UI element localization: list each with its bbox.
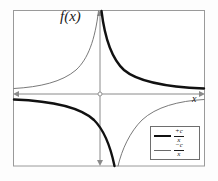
legend-swatch-thin-line (154, 150, 171, 151)
legend-label-neg-c-over-x: −c x (174, 142, 184, 158)
legend-denominator-neg: x (176, 151, 181, 158)
legend-numerator-neg: −c (174, 142, 184, 149)
function-label: f(x) (60, 9, 81, 24)
function-plot-figure: f(x) x +c x −c x (0, 0, 218, 181)
legend-swatch-thick-line (154, 135, 171, 137)
legend-entry-negative: −c x (154, 143, 196, 157)
origin-marker (98, 92, 102, 96)
legend-numerator-pos: +c (174, 128, 184, 135)
x-axis-label: x (192, 94, 196, 104)
legend: +c x −c x (150, 126, 200, 160)
